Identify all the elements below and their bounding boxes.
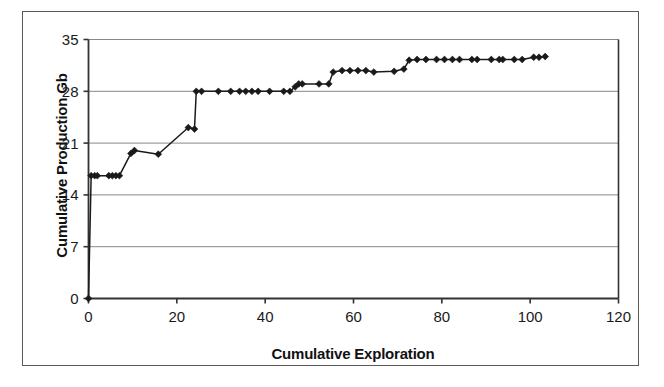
axis-lines [89, 40, 619, 299]
data-point-marker [316, 81, 323, 88]
y-axis-ticks: 0714212835 [62, 31, 89, 307]
data-point-marker [266, 88, 273, 95]
data-point-marker [433, 56, 440, 63]
data-point-marker [536, 54, 543, 61]
x-tick-label: 120 [606, 308, 631, 325]
x-tick-label: 20 [168, 308, 185, 325]
data-series [85, 53, 548, 302]
data-point-marker [414, 56, 421, 63]
data-point-marker [511, 56, 518, 63]
data-point-marker [488, 56, 495, 63]
y-tick-label: 14 [62, 186, 79, 203]
data-point-marker [400, 66, 407, 73]
y-tick-label: 7 [70, 238, 78, 255]
x-tick-label: 0 [84, 308, 92, 325]
data-point-marker [474, 56, 481, 63]
line-chart-plot: 0714212835 020406080100120 [0, 0, 664, 387]
data-point-marker [85, 295, 92, 302]
y-tick-label: 35 [62, 31, 79, 48]
x-tick-label: 40 [257, 308, 274, 325]
data-point-marker [255, 88, 262, 95]
data-point-marker [406, 57, 413, 64]
data-point-marker [198, 88, 205, 95]
x-tick-label: 60 [345, 308, 362, 325]
series-line [89, 57, 546, 299]
data-point-marker [519, 56, 526, 63]
y-tick-label: 28 [62, 83, 79, 100]
data-point-marker [542, 53, 549, 60]
data-point-marker [191, 126, 198, 133]
data-point-marker [339, 67, 346, 74]
x-tick-label: 100 [518, 308, 543, 325]
data-point-marker [441, 56, 448, 63]
data-point-marker [325, 81, 332, 88]
data-point-marker [330, 69, 337, 76]
chart-figure: Cumulative Production Gb Cumulative Expl… [0, 0, 664, 387]
y-tick-label: 21 [62, 135, 79, 152]
data-point-marker [391, 68, 398, 75]
data-point-marker [449, 56, 456, 63]
data-point-marker [370, 69, 377, 76]
data-point-marker [347, 67, 354, 74]
y-tick-label: 0 [70, 290, 78, 307]
data-point-marker [362, 67, 369, 74]
x-axis-ticks: 020406080100120 [84, 299, 631, 325]
data-point-marker [215, 88, 222, 95]
x-tick-label: 80 [433, 308, 450, 325]
data-point-marker [423, 56, 430, 63]
data-point-marker [456, 56, 463, 63]
data-point-marker [227, 88, 234, 95]
data-point-marker [355, 67, 362, 74]
